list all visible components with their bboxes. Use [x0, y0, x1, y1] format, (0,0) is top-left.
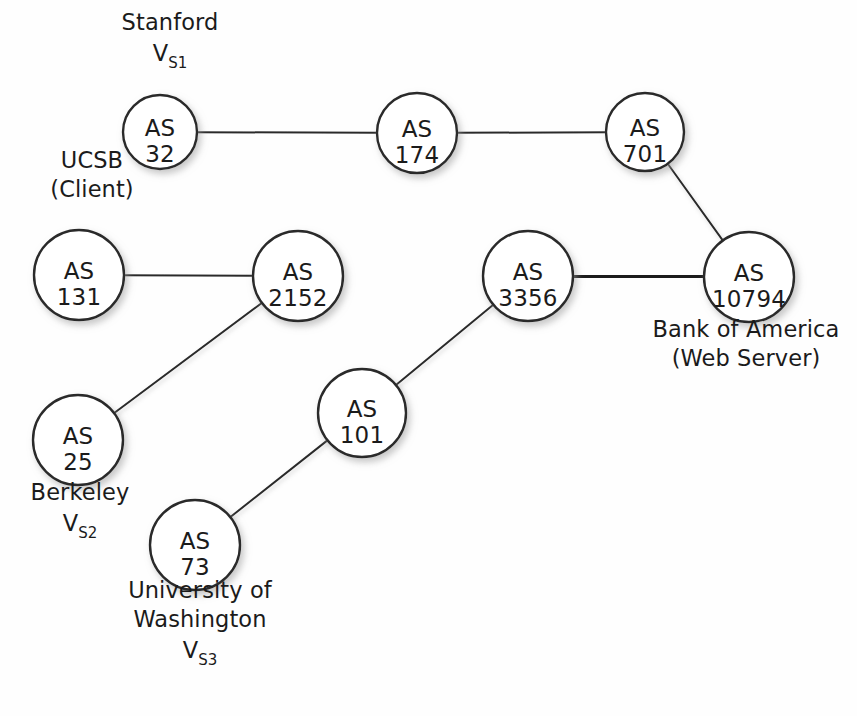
node-as-prefix: AS — [513, 259, 544, 285]
node-as-prefix: AS — [180, 528, 211, 554]
node-as32[interactable]: AS32 — [123, 95, 197, 169]
node-as-number: 131 — [57, 284, 102, 310]
vector-subscript: S1 — [168, 54, 187, 72]
node-as-number: 701 — [623, 141, 668, 167]
edge-as131-as2152 — [122, 275, 254, 276]
annotation-bank-of-america: Bank of America(Web Server) — [653, 316, 840, 371]
annotation-line: UCSB — [61, 147, 123, 173]
annotation-vector-label: VS2 — [63, 510, 97, 542]
node-as-prefix: AS — [145, 115, 176, 141]
node-as-number: 32 — [145, 141, 175, 167]
node-as-prefix: AS — [347, 396, 378, 422]
edge-as101-as3356 — [395, 304, 495, 386]
vector-base: V — [63, 510, 79, 536]
node-as-prefix: AS — [64, 258, 95, 284]
node-as-number: 101 — [340, 422, 385, 448]
node-as174[interactable]: AS174 — [377, 93, 457, 173]
annotation-line: Washington — [133, 606, 266, 632]
node-as-number: 174 — [395, 142, 440, 168]
node-as3356[interactable]: AS3356 — [483, 231, 573, 321]
node-as-number: 73 — [180, 554, 210, 580]
node-as25[interactable]: AS25 — [33, 395, 123, 485]
annotation-line: Berkeley — [31, 479, 130, 505]
annotation-line: (Client) — [50, 176, 134, 202]
edge-as73-as101 — [229, 439, 329, 518]
vector-base: V — [153, 40, 169, 66]
vector-subscript: S3 — [198, 651, 217, 669]
annotation-line: University of — [128, 577, 273, 603]
node-as-number: 25 — [63, 449, 93, 475]
annotation-vector-label: VS3 — [183, 637, 217, 669]
node-as-prefix: AS — [630, 115, 661, 141]
node-as2152[interactable]: AS2152 — [253, 231, 343, 321]
annotation-vector-label: VS1 — [153, 40, 187, 72]
edge-as25-as2152 — [113, 302, 263, 414]
annotation-stanford: StanfordVS1 — [122, 9, 219, 72]
edge-as701-as10794 — [667, 162, 724, 241]
node-as-prefix: AS — [402, 116, 433, 142]
annotation-berkeley: BerkeleyVS2 — [31, 479, 130, 542]
node-as10794[interactable]: AS10794 — [704, 232, 794, 322]
node-as-number: 2152 — [268, 285, 327, 311]
node-as131[interactable]: AS131 — [34, 230, 124, 320]
vector-subscript: S2 — [78, 524, 97, 542]
node-as101[interactable]: AS101 — [318, 369, 406, 457]
node-as-prefix: AS — [734, 260, 765, 286]
network-diagram-canvas: AS32AS174AS701AS131AS2152AS3356AS10794AS… — [0, 0, 857, 716]
edge-as32-as174 — [195, 132, 378, 133]
annotation-line: (Web Server) — [672, 345, 821, 371]
node-as-number: 10794 — [712, 286, 786, 312]
node-as-number: 3356 — [498, 285, 557, 311]
edge-as3356-as10794 — [571, 276, 705, 277]
vector-base: V — [183, 637, 199, 663]
node-as-prefix: AS — [283, 259, 314, 285]
edge-as174-as701 — [455, 132, 607, 133]
node-as701[interactable]: AS701 — [606, 93, 684, 171]
as-topology-graph: AS32AS174AS701AS131AS2152AS3356AS10794AS… — [0, 0, 857, 716]
annotation-line: Stanford — [122, 9, 219, 35]
annotation-ucsb: UCSB(Client) — [50, 147, 134, 202]
annotation-university-of-washington: University ofWashingtonVS3 — [128, 577, 273, 669]
node-as-prefix: AS — [63, 423, 94, 449]
annotation-line: Bank of America — [653, 316, 840, 342]
edge-layer — [113, 132, 724, 518]
